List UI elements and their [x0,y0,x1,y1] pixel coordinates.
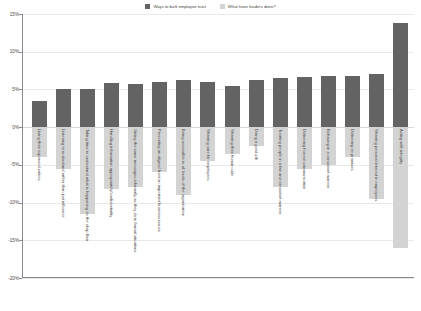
y-axis-tick-label: 0% [12,125,19,130]
x-axis-category-label: Showing care for employees [205,129,210,181]
x-axis-category-label: Behaving in a consistent manner [326,129,331,188]
bar-positive[interactable] [249,80,264,128]
x-axis-category-label: Living their espoused values [36,129,41,181]
x-axis-category-label: Showing personal interest in employees [374,129,379,201]
x-axis-category-label: Showing their human side [229,129,234,176]
bar-group[interactable]: Handling information appropriately/confi… [104,14,119,278]
x-axis-category-label: Being accessible to all levels of the or… [181,129,186,216]
y-axis-tick-label: -20% [8,276,19,281]
legend-what-have-leaders-done[interactable]: What have leaders done? [220,4,276,9]
bar-positive[interactable] [152,82,167,127]
bar-positive[interactable] [273,78,288,127]
bar-group[interactable]: Showing personal interest in employees [369,14,384,278]
trust-bar-chart: Ways to built employee trustWhat have le… [0,0,421,311]
bar-group[interactable]: Presenting an aligned front on important… [152,14,167,278]
x-axis-category-label: Delivering on promises [350,129,355,171]
x-axis-category-label: Handling information appropriately/confi… [108,129,113,217]
x-axis-category-label: Giving the same messages informally as t… [133,129,138,252]
bar-positive[interactable] [176,80,191,127]
bar-positive[interactable] [80,89,95,127]
gridline [22,278,414,279]
y-axis-tick-label: 10% [10,49,19,54]
bar-group[interactable]: Giving the same messages informally as t… [128,14,143,278]
y-axis-tick-label: -5% [11,162,19,167]
x-axis-category-label: Listening to understand rather than just… [60,129,65,218]
y-axis-tick-mark [19,278,22,279]
bar-group[interactable]: Showing their human side [225,14,240,278]
y-axis-tick-label: 5% [12,87,19,92]
bar-positive[interactable] [321,76,336,127]
bar-group[interactable]: Delivering honest communication [297,14,312,278]
bar-group[interactable]: Treating people in a fair and consistent… [273,14,288,278]
bar-positive[interactable] [297,77,312,128]
x-axis-category-label: Taking time to understand what is happen… [84,129,89,242]
y-axis-tick-labels: 15%10%5%0%-5%-10%-15%-20% [0,14,19,278]
plot-area: Living their espoused valuesListening to… [22,14,414,278]
legend-ways-to-build-trust[interactable]: Ways to built employee trust [145,4,205,9]
bar-positive[interactable] [369,74,384,127]
legend-swatch-icon [145,4,150,9]
bar-positive[interactable] [56,89,71,127]
bar-positive[interactable] [104,83,119,127]
bar-group[interactable]: Being accessible to all levels of the or… [176,14,191,278]
y-axis-tick-label: -10% [8,200,19,205]
bar-positive[interactable] [225,86,240,127]
bar-group[interactable]: Living their espoused values [32,14,47,278]
x-axis-category-label: Delivering honest communication [301,129,306,189]
legend-label: What have leaders done? [228,4,276,9]
x-axis-category-label: Presenting an aligned front on important… [157,129,162,232]
bar-group[interactable]: Doing a good job [249,14,264,278]
x-axis-category-label: Treating people in a fair and consistent… [277,129,282,214]
bar-group[interactable]: Behaving in a consistent manner [321,14,336,278]
y-axis-tick-label: -15% [8,238,19,243]
bar-group[interactable]: Delivering on promises [345,14,360,278]
bar-group[interactable]: Taking time to understand what is happen… [80,14,95,278]
bar-group[interactable]: Listening to understand rather than just… [56,14,71,278]
bar-positive[interactable] [393,23,408,127]
bar-positive[interactable] [200,82,215,127]
bar-positive[interactable] [32,101,47,127]
bar-group[interactable]: Acting with integrity [393,14,408,278]
legend-swatch-icon [220,4,225,9]
bar-group[interactable]: Showing care for employees [200,14,215,278]
chart-legend: Ways to built employee trustWhat have le… [0,1,421,11]
x-axis-category-label: Doing a good job [253,129,258,160]
bar-positive[interactable] [345,76,360,127]
bar-positive[interactable] [128,84,143,127]
legend-label: Ways to built employee trust [153,4,205,9]
x-axis-category-label: Acting with integrity [398,129,403,164]
y-axis-tick-label: 15% [10,12,19,17]
bar-series-group: Living their espoused valuesListening to… [22,14,414,278]
